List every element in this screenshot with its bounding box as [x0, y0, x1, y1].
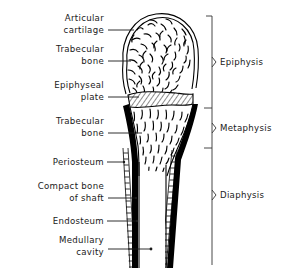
label-trabecular-bone-epiphysis-line2: bone	[81, 56, 104, 66]
epiphyseal-plate	[128, 92, 193, 108]
label-compact-bone-line2: of shaft	[69, 193, 104, 203]
label-diaphysis: Diaphysis	[220, 190, 265, 200]
label-trabecular-bone-epiphysis-line1: Trabecular	[55, 44, 104, 54]
leader-dot-endosteum	[136, 220, 138, 222]
label-compact-bone-line1: Compact bone	[38, 181, 104, 191]
medullary-cavity-space	[140, 170, 165, 268]
label-trabecular-bone-metaphysis-line1: Trabecular	[55, 116, 104, 126]
label-endosteum: Endosteum	[53, 216, 104, 226]
label-epiphyseal-plate-line2: plate	[81, 92, 104, 102]
label-epiphyseal-plate-line1: Epiphyseal	[54, 80, 104, 90]
label-trabecular-bone-metaphysis-line2: bone	[81, 128, 104, 138]
label-articular-cartilage-line1: Articular	[65, 13, 104, 23]
bone-anatomy-diagram: Articular cartilage Trabecular bone Epip…	[0, 0, 283, 272]
leader-dot-compact-bone	[135, 197, 137, 199]
leader-dot-periosteum	[123, 161, 125, 163]
label-medullary-cavity-line2: cavity	[76, 247, 104, 257]
leader-dot-medullary-cavity	[150, 248, 153, 251]
label-epiphysis: Epiphysis	[220, 57, 264, 67]
label-articular-cartilage-line2: cartilage	[64, 25, 104, 35]
label-periosteum: Periosteum	[53, 157, 104, 167]
label-medullary-cavity-line1: Medullary	[59, 235, 104, 245]
label-metaphysis: Metaphysis	[220, 123, 272, 133]
epiphyseal-plate-hatch	[128, 92, 193, 108]
